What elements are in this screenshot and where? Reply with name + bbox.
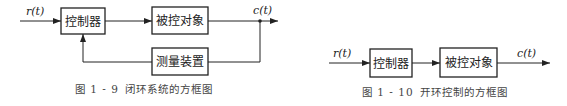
plant-label: 被控对象 (445, 56, 493, 70)
controller-label: 控制器 (65, 15, 101, 29)
feedback-arrow (83, 34, 152, 62)
figure-caption: 闭环系统的方框图 (125, 83, 213, 95)
figure-number: 图 1 - 10 (362, 86, 414, 98)
sensor-label: 测量装置 (156, 55, 204, 69)
controller-label: 控制器 (373, 57, 409, 71)
input-signal-label: r(t) (26, 5, 44, 18)
open-loop-diagram: r(t) 控制器 被控对象 c(t) 图 1 - 10 开环控制的方框图 (329, 47, 550, 98)
input-signal-label: r(t) (333, 47, 351, 60)
feedback-to-sensor-line (208, 21, 260, 62)
figure-caption: 开环控制的方框图 (420, 86, 508, 98)
plant-label: 被控对象 (156, 14, 204, 28)
output-signal-label: c(t) (517, 47, 536, 60)
closed-loop-diagram: r(t) 控制器 被控对象 c(t) 测量装置 图 1 - 9 闭环系统的方框图 (20, 4, 278, 95)
output-signal-label: c(t) (253, 4, 272, 17)
figure-number: 图 1 - 9 (75, 83, 119, 95)
diagram-canvas: r(t) 控制器 被控对象 c(t) 测量装置 图 1 - 9 闭环系统的方框图… (0, 0, 567, 106)
